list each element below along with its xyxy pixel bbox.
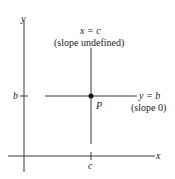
slope-zero-label: (slope 0)	[131, 102, 166, 113]
x-eq-c-label: x = c	[80, 25, 101, 36]
point-p-label: P	[96, 100, 102, 111]
point-p	[89, 94, 94, 99]
y-eq-b-label: y = b	[139, 90, 160, 101]
slope-undefined-label: (slope undefined)	[54, 37, 124, 48]
c-tick-label: c	[88, 160, 92, 171]
b-tick-label: b	[13, 90, 18, 101]
y-axis-label: y	[21, 13, 25, 24]
x-axis-label: x	[156, 150, 160, 161]
